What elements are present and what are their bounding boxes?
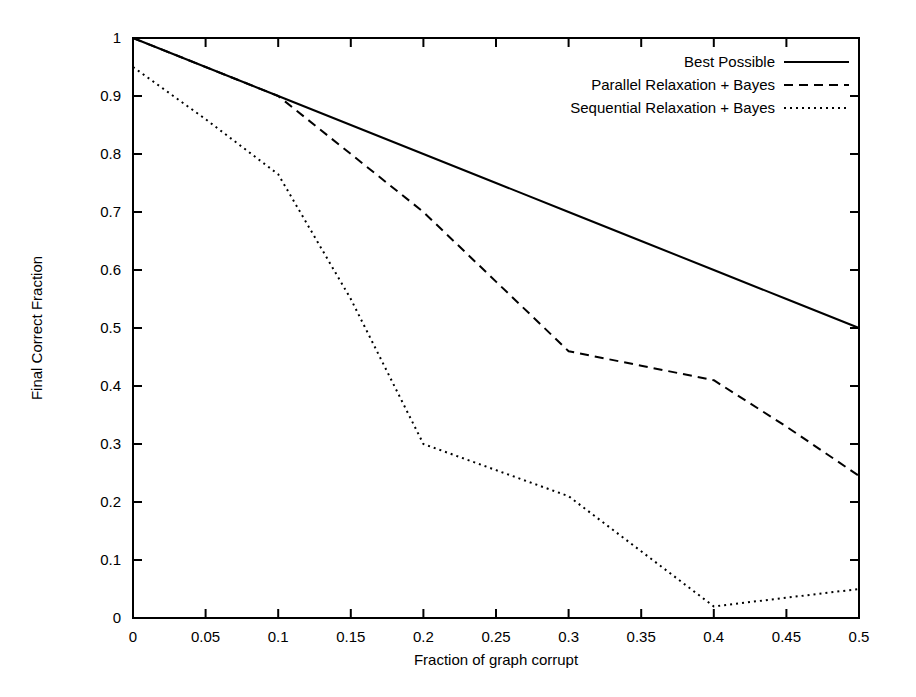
- y-tick-label: 0.1: [100, 551, 121, 568]
- y-tick-label: 0.5: [100, 319, 121, 336]
- y-tick-label: 0.9: [100, 87, 121, 104]
- legend-label-2: Parallel Relaxation + Bayes: [591, 76, 775, 93]
- y-tick-label: 0.6: [100, 261, 121, 278]
- y-tick-label: 0.7: [100, 203, 121, 220]
- x-tick-label: 0.25: [481, 628, 510, 645]
- y-tick-label: 1: [113, 29, 121, 46]
- x-tick-label: 0.35: [627, 628, 656, 645]
- chart-container: 00.050.10.150.20.250.30.350.40.450.5 00.…: [0, 0, 916, 697]
- y-tick-label: 0.3: [100, 435, 121, 452]
- y-tick-label: 0.8: [100, 145, 121, 162]
- x-tick-label: 0.5: [849, 628, 870, 645]
- y-tick-label: 0: [113, 609, 121, 626]
- x-tick-label: 0.1: [268, 628, 289, 645]
- legend-label-3: Sequential Relaxation + Bayes: [570, 99, 775, 116]
- x-tick-label: 0.15: [336, 628, 365, 645]
- x-tick-label: 0.45: [772, 628, 801, 645]
- x-tick-label: 0.3: [558, 628, 579, 645]
- x-tick-label: 0.4: [703, 628, 724, 645]
- y-axis-title: Final Correct Fraction: [28, 256, 45, 400]
- x-tick-label: 0.05: [191, 628, 220, 645]
- x-tick-label: 0: [129, 628, 137, 645]
- y-tick-label: 0.2: [100, 493, 121, 510]
- chart-background: [0, 0, 916, 697]
- x-axis-title: Fraction of graph corrupt: [414, 651, 579, 668]
- legend-label-1: Best Possible: [684, 53, 775, 70]
- line-chart: 00.050.10.150.20.250.30.350.40.450.5 00.…: [0, 0, 916, 697]
- x-tick-label: 0.2: [413, 628, 434, 645]
- y-tick-label: 0.4: [100, 377, 121, 394]
